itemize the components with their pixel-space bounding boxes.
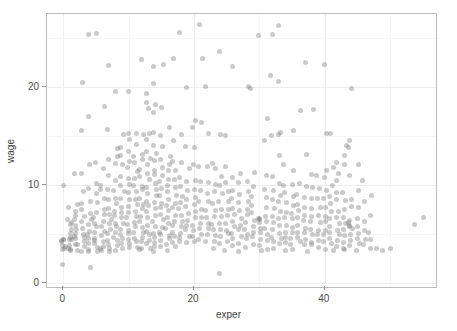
gridline-y-major (47, 283, 436, 284)
data-point (172, 177, 177, 182)
data-point (315, 196, 320, 201)
data-point (368, 237, 373, 242)
data-point (151, 130, 156, 135)
data-point (334, 178, 339, 183)
data-point (114, 201, 119, 206)
data-point (349, 86, 354, 91)
data-point (158, 244, 163, 249)
data-point (289, 211, 294, 216)
data-point (295, 202, 300, 207)
data-point (177, 175, 182, 180)
data-point (236, 200, 241, 205)
data-point (369, 193, 374, 198)
data-point (95, 200, 100, 205)
data-point (270, 197, 275, 202)
data-point (165, 215, 170, 220)
data-point (316, 238, 321, 243)
data-point (301, 218, 306, 223)
data-point (176, 206, 181, 211)
data-point (327, 224, 332, 229)
data-point (160, 144, 165, 149)
data-point (81, 189, 86, 194)
plot-panel (46, 13, 437, 288)
data-point (166, 197, 171, 202)
data-point (165, 189, 170, 194)
data-point (349, 204, 354, 209)
data-point (256, 33, 261, 38)
data-point (290, 182, 295, 187)
data-point (327, 236, 332, 241)
data-point (283, 248, 288, 253)
data-point (284, 200, 289, 205)
data-point (177, 30, 182, 35)
data-point (264, 173, 269, 178)
data-point (151, 143, 156, 148)
data-point (118, 196, 123, 201)
data-point (421, 215, 426, 220)
data-point (237, 208, 242, 213)
data-point (225, 213, 230, 218)
data-point (242, 227, 247, 232)
data-point (341, 240, 346, 245)
data-point (222, 248, 227, 253)
data-point (118, 183, 123, 188)
data-point (291, 128, 296, 133)
data-point (341, 227, 346, 232)
data-point (178, 184, 183, 189)
data-point (173, 168, 178, 173)
data-point (144, 137, 149, 142)
data-point (113, 178, 118, 183)
data-point (146, 203, 151, 208)
data-point (276, 199, 281, 204)
data-point (174, 193, 179, 198)
data-point (165, 183, 170, 188)
data-point (225, 239, 230, 244)
data-point (163, 226, 168, 231)
data-point (264, 219, 269, 224)
data-point (354, 248, 359, 253)
data-point (150, 219, 155, 224)
data-point (380, 248, 385, 253)
data-point (154, 151, 159, 156)
data-point (349, 197, 354, 202)
data-point (86, 186, 91, 191)
data-point (355, 216, 360, 221)
data-point (203, 208, 208, 213)
data-point (250, 234, 255, 239)
data-point (223, 164, 228, 169)
data-point (330, 183, 335, 188)
data-point (374, 246, 379, 251)
data-point (219, 214, 224, 219)
data-point (167, 125, 172, 130)
data-point (79, 128, 84, 133)
data-point (126, 131, 131, 136)
data-point (243, 220, 248, 225)
data-point (213, 208, 218, 213)
data-point (218, 234, 223, 239)
data-point (60, 262, 65, 267)
data-point (318, 220, 323, 225)
data-point (211, 246, 216, 251)
data-point (327, 194, 332, 199)
data-point (248, 86, 253, 91)
data-point (270, 174, 275, 179)
data-point (105, 231, 110, 236)
data-point (252, 170, 257, 175)
data-point (132, 160, 137, 165)
data-point (245, 179, 250, 184)
data-point (270, 227, 275, 232)
data-point (183, 227, 188, 232)
data-point (342, 233, 347, 238)
data-point (334, 160, 339, 165)
data-point (191, 228, 196, 233)
data-point (327, 216, 332, 221)
data-point (329, 241, 334, 246)
data-point (249, 194, 254, 199)
data-point (105, 127, 110, 132)
data-point (102, 104, 107, 109)
gridline-y-minor (47, 38, 436, 39)
data-point (86, 249, 91, 254)
gridline-x-major (325, 14, 326, 287)
data-point (126, 190, 131, 195)
data-point (302, 195, 307, 200)
